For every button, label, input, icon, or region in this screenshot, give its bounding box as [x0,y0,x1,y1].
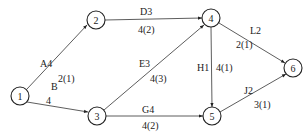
edge-2-4 [105,18,202,20]
node-3: 3 [88,107,106,125]
svg-text:5: 5 [210,111,215,122]
edge-label-value: 4(3) [150,73,167,85]
edge-label-value: 4(2) [138,24,155,36]
edge-label-name: D3 [140,6,152,17]
edge-label-value: 3(1) [254,99,271,111]
node-6: 6 [284,59,302,77]
node-4: 4 [202,9,220,27]
edge-5-6 [220,74,286,112]
edge-label-name: L2 [250,25,261,36]
svg-text:2: 2 [94,15,99,26]
node-1: 1 [11,87,29,105]
edge-label-name: H1 [197,62,209,73]
network-diagram: A4 2(1) B 4 D3 4(2) E3 4(3) G4 4(2) H1 4… [0,0,308,139]
svg-text:6: 6 [291,63,296,74]
edge-label-value: 4(2) [142,120,159,132]
edge-label-name: G4 [142,104,154,115]
edge-1-3 [27,102,88,112]
edge-label-name: A4 [40,58,52,69]
edge-3-4 [104,25,204,110]
edge-label-value: 4(1) [216,62,233,74]
edge-1-2 [27,25,87,89]
edge-4-5 [211,27,212,107]
svg-text:1: 1 [18,91,23,102]
svg-text:3: 3 [95,111,100,122]
edge-label-name: J2 [244,85,253,96]
edge-label-name: E3 [139,58,150,69]
edge-label-value: 2(1) [236,39,253,51]
node-5: 5 [203,107,221,125]
edge-label-value: 4 [46,95,51,106]
node-2: 2 [87,11,105,29]
edge-label-value: 2(1) [58,73,75,85]
edge-label-name: B [51,81,58,92]
svg-text:4: 4 [209,13,214,24]
